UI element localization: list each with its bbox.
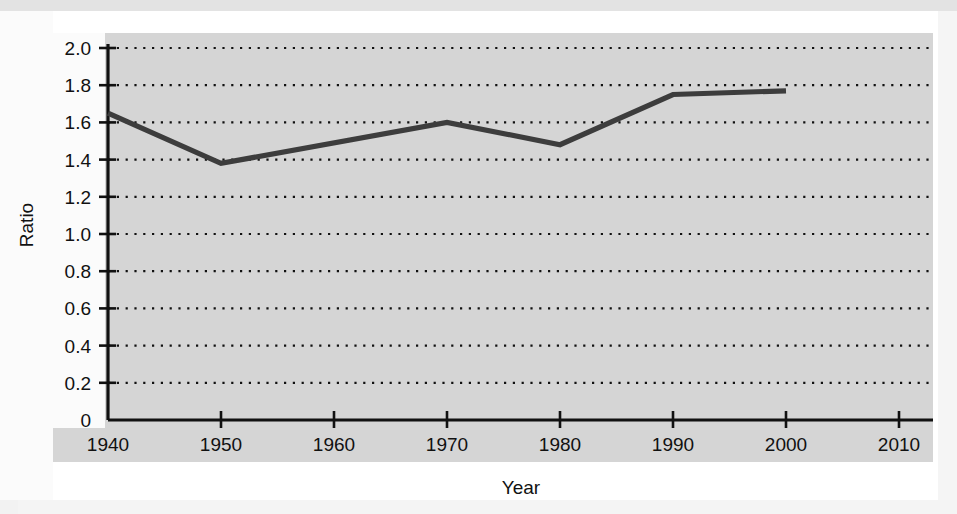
y-axis-title: Ratio bbox=[16, 203, 37, 247]
y-tick-label: 1.0 bbox=[65, 224, 91, 245]
x-tick-label: 1960 bbox=[313, 434, 355, 455]
x-tick-group: 19401950196019701980199020002010 bbox=[87, 411, 920, 455]
x-tick-label: 2010 bbox=[878, 434, 920, 455]
x-tick-label: 1990 bbox=[652, 434, 694, 455]
y-tick-label: 0.2 bbox=[65, 373, 91, 394]
x-axis-title: Year bbox=[502, 477, 541, 498]
x-tick-label: 1970 bbox=[426, 434, 468, 455]
data-series-group bbox=[108, 91, 786, 164]
axis-group bbox=[108, 44, 933, 420]
y-tick-label: 2.0 bbox=[65, 38, 91, 59]
y-tick-label: 1.4 bbox=[65, 150, 92, 171]
y-tick-label: 0.8 bbox=[65, 261, 91, 282]
x-tick-label: 1940 bbox=[87, 434, 129, 455]
data-line-ratio bbox=[108, 91, 786, 164]
y-tick-label: 1.6 bbox=[65, 112, 91, 133]
x-tick-label: 2000 bbox=[765, 434, 807, 455]
line-chart: 00.20.40.60.81.01.21.41.61.82.0 19401950… bbox=[0, 0, 957, 514]
x-tick-label: 1950 bbox=[200, 434, 242, 455]
x-tick-label: 1980 bbox=[539, 434, 581, 455]
y-tick-label: 0.4 bbox=[65, 336, 92, 357]
y-tick-label: 0 bbox=[80, 410, 91, 431]
y-tick-label: 0.6 bbox=[65, 298, 91, 319]
figure-canvas: 00.20.40.60.81.01.21.41.61.82.0 19401950… bbox=[0, 0, 957, 514]
gridline-group bbox=[108, 48, 933, 383]
y-tick-label: 1.2 bbox=[65, 187, 91, 208]
y-tick-label: 1.8 bbox=[65, 75, 91, 96]
